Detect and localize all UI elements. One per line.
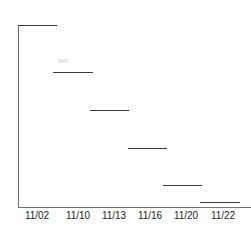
- x-axis-tick-labels: 11/0211/1011/1311/1611/2011/22: [0, 209, 251, 227]
- step-segment: [53, 72, 93, 73]
- x-tick-label: 11/13: [102, 209, 126, 223]
- x-tick-label: 11/16: [138, 209, 162, 223]
- step-segment: [200, 202, 240, 203]
- x-tick-label: 11/22: [211, 209, 235, 223]
- y-axis-line: [18, 25, 19, 208]
- x-tick-label: 11/20: [174, 209, 198, 223]
- plot-area: [0, 0, 251, 240]
- x-tick-label: 11/10: [66, 209, 90, 223]
- x-tick-label: 11/02: [25, 209, 49, 223]
- step-segment: [18, 25, 57, 26]
- x-axis-line: [18, 207, 251, 208]
- step-segment: [163, 185, 202, 186]
- scan-artifact: [58, 59, 68, 63]
- step-chart: 11/0211/1011/1311/1611/2011/22: [0, 0, 251, 240]
- step-segment: [128, 148, 167, 149]
- step-segment: [90, 110, 129, 111]
